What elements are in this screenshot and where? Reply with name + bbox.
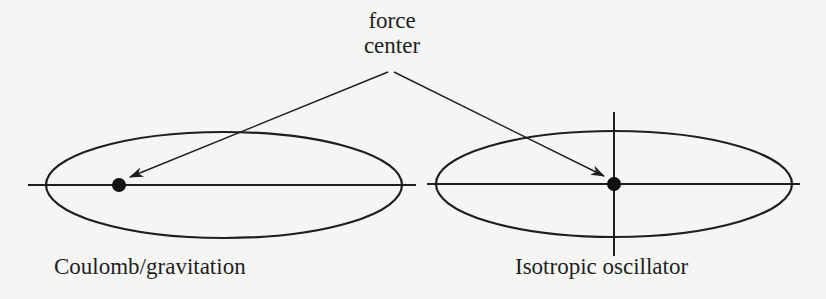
oscillator-caption: Isotropic oscillator (515, 255, 688, 278)
coulomb-force-center-dot (112, 178, 126, 192)
force-center-label: force center (352, 8, 432, 58)
oscillator-panel (427, 112, 800, 256)
annotation-arrows (130, 72, 604, 177)
arrow-to-coulomb-center (130, 72, 388, 177)
force-center-label-line2: center (352, 33, 432, 58)
arrow-to-oscillator-center (394, 72, 604, 176)
force-center-label-line1: force (352, 8, 432, 33)
figure-canvas: force center Coulomb/gravitation Isotrop… (0, 0, 826, 299)
oscillator-force-center-dot (607, 177, 621, 191)
coulomb-panel (28, 132, 416, 238)
coulomb-caption: Coulomb/gravitation (54, 255, 246, 278)
